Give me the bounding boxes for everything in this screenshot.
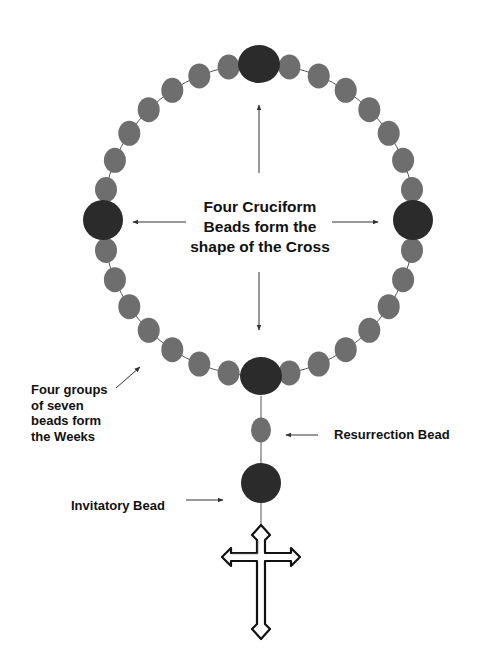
week-bead <box>95 238 117 263</box>
cruciform-caption-line-2: Beads form the <box>184 217 336 237</box>
week-bead <box>118 121 140 146</box>
week-bead <box>278 55 300 80</box>
weeks-caption-line-4: the Weeks <box>31 429 141 445</box>
week-bead <box>308 352 330 377</box>
weeks-caption-line-2: of seven <box>31 398 141 414</box>
cruciform-bead-left <box>83 200 123 240</box>
week-bead <box>392 267 414 292</box>
week-bead <box>188 352 210 377</box>
resurrection-caption: Resurrection Bead <box>334 427 450 442</box>
week-bead <box>161 78 183 103</box>
cruciform-bead-right <box>393 200 433 240</box>
invitatory-caption: Invitatory Bead <box>71 498 165 513</box>
week-bead <box>335 337 357 362</box>
weeks-caption: Four groups of seven beads form the Week… <box>31 382 141 444</box>
cruciform-caption-line-1: Four Cruciform <box>184 197 336 217</box>
week-bead <box>392 148 414 173</box>
cruciform-caption-line-3: shape of the Cross <box>184 237 336 257</box>
week-bead <box>218 361 240 386</box>
week-bead <box>358 97 380 122</box>
resurrection-bead <box>251 418 271 443</box>
week-bead <box>104 267 126 292</box>
cross-icon <box>222 525 300 639</box>
weeks-caption-line-3: beads form <box>31 413 141 429</box>
cruciform-caption: Four Cruciform Beads form the shape of t… <box>184 197 336 257</box>
week-bead <box>378 121 400 146</box>
week-bead <box>118 294 140 319</box>
invitatory-bead <box>241 463 281 503</box>
week-bead <box>138 97 160 122</box>
week-bead <box>308 63 330 88</box>
week-bead <box>401 238 423 263</box>
week-bead <box>218 55 240 80</box>
week-bead <box>335 78 357 103</box>
week-bead <box>95 177 117 202</box>
week-bead <box>358 318 380 343</box>
cruciform-bead-top <box>238 45 280 83</box>
week-bead <box>401 177 423 202</box>
week-bead <box>104 148 126 173</box>
prayer-beads-diagram <box>0 0 487 667</box>
week-bead <box>161 337 183 362</box>
week-bead <box>138 318 160 343</box>
week-bead <box>188 63 210 88</box>
cruciform-bead-bottom <box>240 357 282 395</box>
week-bead <box>378 294 400 319</box>
weeks-caption-line-1: Four groups <box>31 382 141 398</box>
